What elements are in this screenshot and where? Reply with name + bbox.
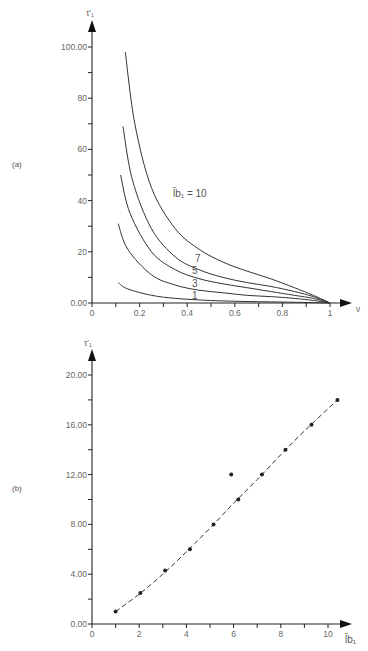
data-point	[212, 522, 216, 526]
panel-a-label: (a)	[12, 160, 22, 169]
data-point	[309, 423, 313, 427]
data-point	[163, 568, 167, 572]
curve-label-7: 7	[195, 253, 201, 264]
chart-a-curves	[118, 52, 330, 303]
curve-label-5: 5	[192, 265, 198, 276]
y-tick-label: 8.00	[70, 519, 87, 529]
y-axis-arrow-icon	[88, 20, 96, 32]
y-tick-label: 40	[78, 196, 88, 206]
x-axis-arrow-icon	[340, 299, 352, 307]
y-axis-arrow-icon	[88, 349, 96, 361]
data-point	[138, 591, 142, 595]
chart-b-ylabel: τ'₁	[84, 338, 92, 348]
curve-5	[121, 175, 330, 303]
x-tick-label: 1	[328, 308, 333, 318]
data-point	[188, 547, 192, 551]
data-point	[114, 610, 118, 614]
y-tick-label: 4.00	[70, 569, 87, 579]
x-tick-label: 8	[278, 629, 283, 639]
x-tick-label: 10	[323, 629, 333, 639]
data-point	[260, 473, 264, 477]
x-tick-label: 0	[90, 308, 95, 318]
data-point	[236, 498, 240, 502]
chart-b-axes: τ'₁ l̄b₁ 0.004.008.0012.0016.0020.00 024…	[66, 338, 357, 645]
x-tick-label: 0.8	[276, 308, 288, 318]
y-tick-label: 80	[78, 93, 88, 103]
y-tick-label: 16.00	[66, 420, 88, 430]
chart-a: (a) (b) τ'₁ ν 0.0020406080100.00 00.20.4…	[0, 0, 368, 651]
chart-a-xlabel: ν	[356, 304, 360, 314]
y-tick-label: 0.00	[70, 619, 87, 629]
x-tick-label: 0.2	[134, 308, 146, 318]
data-point	[284, 448, 288, 452]
data-point	[335, 398, 339, 402]
y-tick-label: 60	[78, 144, 88, 154]
curve-label-3: 3	[192, 278, 198, 289]
curve-10	[125, 52, 330, 303]
y-tick-label: 100.00	[61, 42, 87, 52]
x-axis-arrow-icon	[340, 620, 352, 628]
data-point	[229, 473, 233, 477]
x-tick-label: 0.4	[181, 308, 193, 318]
curve-label-1: 1	[192, 290, 198, 301]
curve-3	[118, 224, 330, 303]
x-tick-label: 2	[137, 629, 142, 639]
x-tick-label: 6	[231, 629, 236, 639]
panel-b-label: (b)	[12, 484, 22, 493]
chart-b-series	[114, 398, 340, 614]
y-tick-label: 20.00	[66, 370, 88, 380]
x-tick-label: 0	[90, 629, 95, 639]
y-tick-label: 0.00	[70, 298, 87, 308]
x-tick-label: 4	[184, 629, 189, 639]
y-tick-label: 20	[78, 247, 88, 257]
chart-a-axes: τ'₁ ν 0.0020406080100.00 00.20.40.60.81	[61, 8, 360, 318]
chart-b-xlabel: l̄b₁	[344, 633, 357, 645]
curve-label-10: l̄b₁ = 10	[172, 187, 207, 199]
x-tick-label: 0.6	[229, 308, 241, 318]
y-tick-label: 12.00	[66, 470, 88, 480]
chart-a-ylabel: τ'₁	[86, 8, 94, 18]
fit-line	[116, 400, 338, 612]
